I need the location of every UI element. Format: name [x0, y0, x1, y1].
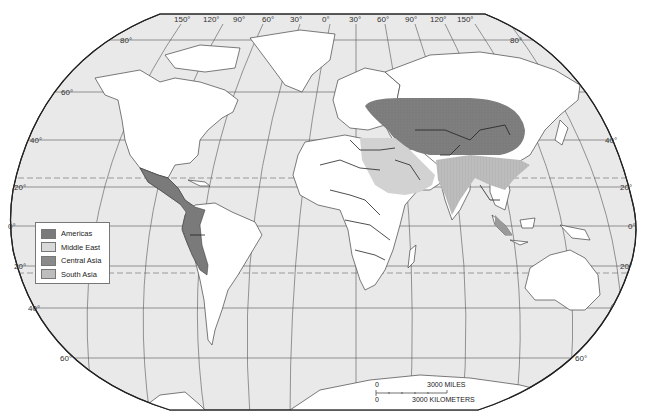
- svg-text:80°: 80°: [510, 36, 522, 45]
- swatch-south-asia: [41, 269, 56, 279]
- svg-text:60°: 60°: [61, 88, 73, 97]
- svg-text:120°: 120°: [203, 15, 220, 24]
- scale-zero-km: 0: [375, 396, 379, 403]
- svg-text:120°: 120°: [430, 15, 447, 24]
- svg-text:60°: 60°: [262, 15, 274, 24]
- map-legend: Americas Middle East Central Asia South …: [35, 222, 110, 284]
- svg-text:20°: 20°: [14, 183, 26, 192]
- swatch-americas: [41, 229, 56, 239]
- svg-text:40°: 40°: [605, 136, 617, 145]
- swatch-central-asia: [41, 256, 56, 266]
- svg-text:150°: 150°: [174, 15, 191, 24]
- legend-item-middle-east: Middle East: [41, 241, 104, 255]
- svg-text:150°: 150°: [457, 15, 474, 24]
- svg-text:20°: 20°: [620, 262, 632, 271]
- svg-text:90°: 90°: [405, 15, 417, 24]
- legend-item-south-asia: South Asia: [41, 268, 104, 282]
- svg-text:20°: 20°: [14, 262, 26, 271]
- svg-text:90°: 90°: [233, 15, 245, 24]
- legend-item-americas: Americas: [41, 227, 104, 241]
- legend-label: South Asia: [61, 270, 97, 279]
- svg-text:60°: 60°: [575, 354, 587, 363]
- scale-miles-label: 3000 MILES: [427, 381, 466, 388]
- svg-text:0°: 0°: [8, 222, 16, 231]
- legend-label: Central Asia: [61, 256, 101, 265]
- svg-text:80°: 80°: [120, 36, 132, 45]
- scale-bar: 0 3000 MILES 0 3000 KILOMETERS: [372, 381, 512, 411]
- scale-zero-miles: 0: [375, 381, 379, 388]
- svg-text:0°: 0°: [628, 222, 636, 231]
- legend-label: Americas: [61, 229, 92, 238]
- svg-text:40°: 40°: [30, 136, 42, 145]
- legend-label: Middle East: [61, 243, 100, 252]
- svg-text:20°: 20°: [620, 183, 632, 192]
- legend-item-central-asia: Central Asia: [41, 254, 104, 268]
- scale-km-label: 3000 KILOMETERS: [412, 396, 475, 403]
- svg-text:30°: 30°: [290, 15, 302, 24]
- svg-text:60°: 60°: [377, 15, 389, 24]
- svg-text:0°: 0°: [322, 15, 330, 24]
- svg-text:60°: 60°: [60, 354, 72, 363]
- world-map: 150° 120° 90° 60° 30° 0° 30° 60° 90° 120…: [0, 0, 645, 417]
- svg-text:30°: 30°: [349, 15, 361, 24]
- svg-text:40°: 40°: [28, 304, 40, 313]
- swatch-middle-east: [41, 242, 56, 252]
